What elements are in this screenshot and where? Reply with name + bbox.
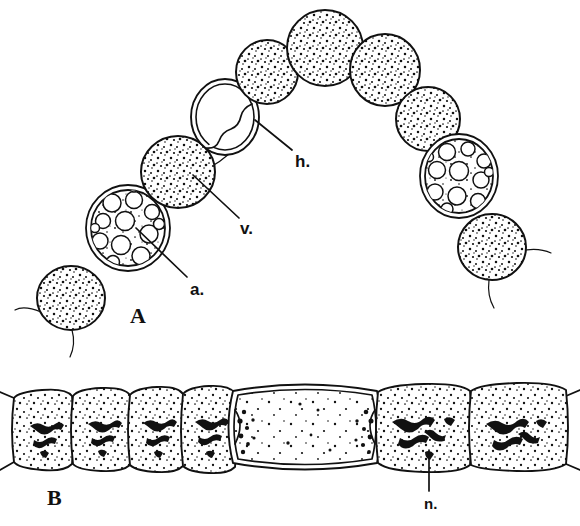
cell-b2 [71,388,132,471]
panel-b-group [0,383,580,491]
annotation-label-v: v. [240,220,253,237]
cell-b5-heterocyst [229,385,382,470]
panel-label-a: A [130,305,146,327]
panel-a-group [15,10,551,357]
leader-h [255,120,292,150]
cell-b6 [376,384,472,472]
cell-b1 [12,390,74,471]
annotation-label-h: h. [295,153,310,170]
cell-b7 [469,383,568,471]
annotation-label-a: a. [190,281,204,298]
figure-root: A B a. v. h. n. [0,0,580,526]
cell-10-stippled [458,214,526,280]
annotation-label-n: n. [424,496,437,511]
illustration-canvas [0,0,580,526]
cell-b3 [128,387,185,472]
panel-label-b: B [47,487,62,509]
cell-1-stippled [37,266,105,330]
